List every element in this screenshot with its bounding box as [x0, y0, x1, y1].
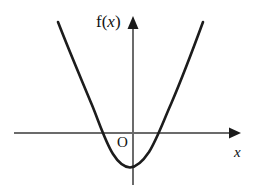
graph-canvas [0, 0, 265, 185]
y-axis-arrowhead-icon [128, 16, 139, 29]
y-axis-label-variable: x [107, 12, 115, 31]
parabola-curve [58, 22, 203, 168]
origin-label: O [117, 135, 128, 150]
y-axis-label-prefix: f( [96, 12, 107, 31]
parabola-figure: f(x) O x [0, 0, 265, 185]
y-axis-label-suffix: ) [115, 12, 121, 31]
x-axis-label: x [234, 145, 241, 160]
y-axis-label: f(x) [96, 13, 121, 30]
x-axis-arrowhead-icon [229, 128, 241, 139]
